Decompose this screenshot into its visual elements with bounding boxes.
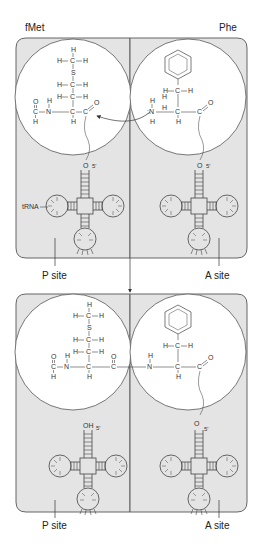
svg-text:H: H xyxy=(162,104,167,111)
phe-trna-circle xyxy=(130,39,246,155)
svg-text:H: H xyxy=(83,93,88,100)
bottom-left-5prime: 5' xyxy=(96,425,100,431)
svg-text:H: H xyxy=(188,342,193,349)
top-right-o: O xyxy=(197,162,203,169)
svg-text:O: O xyxy=(208,99,214,106)
svg-text:H: H xyxy=(176,118,181,125)
svg-text:H: H xyxy=(65,352,70,359)
svg-text:H: H xyxy=(73,336,78,343)
svg-text:S: S xyxy=(71,69,76,76)
svg-text:O: O xyxy=(208,354,214,361)
svg-text:H: H xyxy=(162,93,167,100)
svg-text:H: H xyxy=(73,312,78,319)
svg-text:C: C xyxy=(51,363,56,370)
svg-text:C: C xyxy=(70,93,75,100)
top-right-5prime: 5' xyxy=(206,163,210,169)
svg-text:H: H xyxy=(163,342,168,349)
bottom-right-o: O xyxy=(194,420,200,427)
svg-text:H: H xyxy=(87,301,92,308)
svg-text:H: H xyxy=(57,93,62,100)
trna-label: tRNA xyxy=(22,203,39,210)
top-left-5prime: 5' xyxy=(92,163,96,169)
svg-text:H: H xyxy=(57,57,62,64)
bottom-left-oh: OH xyxy=(83,422,94,429)
svg-text:C: C xyxy=(175,363,180,370)
svg-text:H: H xyxy=(99,312,104,319)
svg-text:H: H xyxy=(83,81,88,88)
svg-text:H: H xyxy=(33,118,38,125)
svg-text:H: H xyxy=(71,118,76,125)
svg-text:O: O xyxy=(51,353,57,360)
svg-text:C: C xyxy=(86,348,91,355)
svg-text:C: C xyxy=(175,87,180,94)
svg-text:C: C xyxy=(111,363,116,370)
svg-text:O: O xyxy=(94,99,100,106)
svg-text:O: O xyxy=(111,353,117,360)
svg-text:H: H xyxy=(99,348,104,355)
svg-text:H: H xyxy=(47,97,52,104)
svg-text:C: C xyxy=(86,312,91,319)
svg-text:H: H xyxy=(83,57,88,64)
svg-text:C: C xyxy=(197,108,202,115)
svg-text:C: C xyxy=(175,342,180,349)
svg-text:C: C xyxy=(86,363,91,370)
svg-text:H: H xyxy=(176,373,181,380)
svg-text:C: C xyxy=(175,108,180,115)
svg-text:C: C xyxy=(197,363,202,370)
svg-text:C: C xyxy=(70,81,75,88)
svg-text:H: H xyxy=(87,373,92,380)
svg-text:H: H xyxy=(57,81,62,88)
svg-text:C: C xyxy=(86,336,91,343)
svg-text:C: C xyxy=(33,108,38,115)
svg-text:O: O xyxy=(33,98,39,105)
svg-text:C: C xyxy=(70,108,75,115)
top-left-o: O xyxy=(83,162,89,169)
svg-text:H: H xyxy=(148,352,153,359)
svg-text:C: C xyxy=(83,108,88,115)
svg-text:N: N xyxy=(46,108,51,115)
svg-text:H: H xyxy=(150,118,155,125)
svg-text:H: H xyxy=(71,46,76,53)
svg-text:H: H xyxy=(51,373,56,380)
svg-text:H: H xyxy=(163,87,168,94)
svg-text:N: N xyxy=(64,363,69,370)
svg-text:C: C xyxy=(70,57,75,64)
svg-text:N: N xyxy=(147,363,152,370)
svg-text:H: H xyxy=(150,97,155,104)
peptide-bond-diagram: H H C H S H C H H C H O C H H N C H C O … xyxy=(0,0,260,550)
svg-text:H: H xyxy=(99,336,104,343)
svg-text:H: H xyxy=(73,348,78,355)
svg-text:H: H xyxy=(188,87,193,94)
bottom-right-5prime: 5' xyxy=(204,426,208,432)
svg-text:S: S xyxy=(87,324,92,331)
